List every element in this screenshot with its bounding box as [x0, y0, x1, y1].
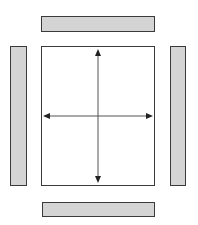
arrows: [0, 0, 198, 225]
